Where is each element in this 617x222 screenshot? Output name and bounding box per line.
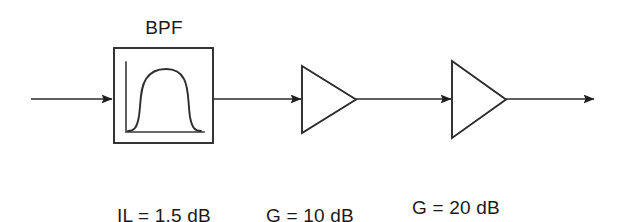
bpf-title-label: BPF [114,16,214,39]
bpf-spec-label: IL = 1.5 dB [100,158,228,222]
amplifier-2-gain-text: G = 20 dB [412,196,542,219]
amplifier-1-symbol [302,66,356,133]
amplifier-1-gain-text: G = 10 dB [266,204,396,222]
amplifier-2-spec-label: G = 20 dB F = 2 dB [412,150,542,222]
amplifier-1-spec-label: G = 10 dB F = 2 dB [266,158,396,222]
bpf-insertion-loss-text: IL = 1.5 dB [100,204,228,222]
rf-cascade-diagram: BPF IL = 1.5 dB G = 10 dB F = 2 dB G = 2… [0,0,617,222]
amplifier-2-symbol [452,61,506,138]
bpf-block [114,48,213,143]
